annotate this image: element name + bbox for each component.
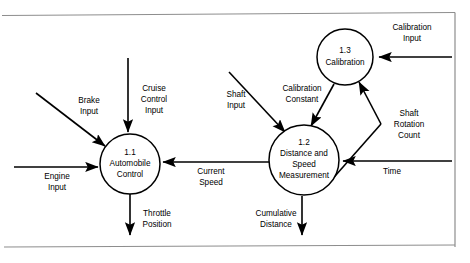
label-engine-input-line-1: Engine: [44, 172, 70, 181]
label-cumulative-distance-line-1: Cumulative: [256, 209, 297, 218]
frame-bottom-border: [4, 245, 455, 247]
frame-top-border: [2, 13, 455, 16]
label-throttle-position-line-1: Throttle: [143, 209, 171, 218]
process-1-1-number: 1.1: [124, 148, 136, 157]
process-1-2-number: 1.2: [298, 138, 310, 147]
label-cruise-control-input-line-2: Control: [141, 95, 168, 104]
diagram-canvas: 1.1 Automobile Control 1.2 Distance and …: [0, 0, 470, 263]
label-brake-input-line-1: Brake: [78, 96, 100, 105]
flow-arrow-shaft-rotation-count: [359, 82, 381, 124]
label-time: Time: [383, 167, 401, 176]
label-shaft-input-line-2: Input: [227, 101, 246, 110]
label-shaft-rotation-count-line-3: Count: [398, 131, 421, 140]
label-shaft-input-line-1: Shaft: [226, 90, 246, 99]
label-calibration-input-line-1: Calibration: [392, 23, 432, 32]
label-cruise-control-input-line-3: Input: [145, 106, 164, 115]
process-1-2-name-line-3: Measurement: [279, 171, 330, 180]
label-throttle-position-line-2: Position: [142, 220, 172, 229]
process-1-2-name-line-1: Distance and: [280, 149, 328, 158]
label-current-speed-line-1: Current: [197, 167, 225, 176]
label-engine-input-line-2: Input: [48, 183, 67, 192]
process-1-1-name-line-2: Control: [117, 170, 144, 179]
process-bubble-1-3[interactable]: [317, 29, 373, 85]
process-1-3-number: 1.3: [339, 46, 351, 55]
label-current-speed-line-2: Speed: [199, 178, 223, 187]
process-1-3-name-line-1: Calibration: [325, 58, 365, 67]
label-shaft-rotation-count-line-1: Shaft: [399, 109, 419, 118]
label-calibration-constant-line-1: Calibration: [282, 84, 322, 93]
label-calibration-constant-line-2: Constant: [286, 95, 319, 104]
label-calibration-input-line-2: Input: [403, 34, 422, 43]
label-brake-input-line-2: Input: [80, 107, 99, 116]
process-1-1-name-line-1: Automobile: [110, 159, 151, 168]
label-shaft-rotation-count-line-2: Rotation: [394, 120, 425, 129]
process-1-2-name-line-2: Speed: [292, 160, 316, 169]
label-cumulative-distance-line-2: Distance: [260, 220, 292, 229]
data-flow-diagram: 1.1 Automobile Control 1.2 Distance and …: [0, 0, 470, 263]
label-cruise-control-input-line-1: Cruise: [142, 84, 166, 93]
